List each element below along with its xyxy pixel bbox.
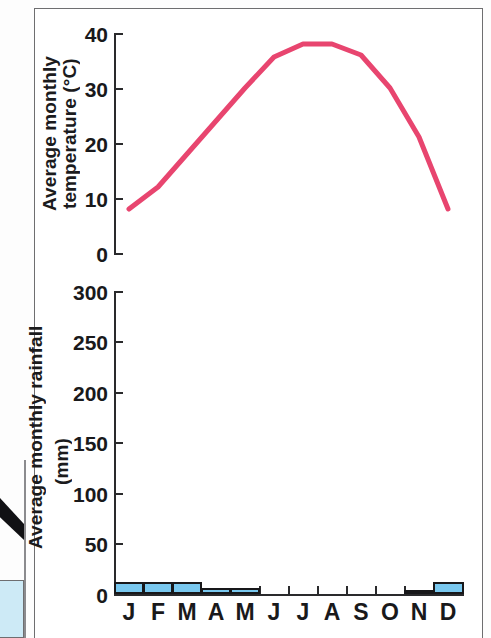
rainfall-tick-label-100: 100 xyxy=(48,483,108,507)
rainfall-tick-200 xyxy=(114,392,123,394)
rainfall-xlabel-apr: A xyxy=(208,599,225,626)
temperature-chart: Average monthly temperature (°C) 40 30 2… xyxy=(0,0,491,262)
climate-graph-page: Average monthly temperature (°C) 40 30 2… xyxy=(0,0,491,638)
rainfall-tick-label-150: 150 xyxy=(48,432,108,456)
rainfall-bar-jan xyxy=(114,582,144,594)
rainfall-xlabel-jul: J xyxy=(297,599,310,626)
rainfall-xlabel-nov: N xyxy=(411,599,428,626)
rainfall-xlabel-oct: O xyxy=(381,599,399,626)
rainfall-chart: Average monthly rainfall (mm) 300 250 20… xyxy=(0,262,491,638)
rainfall-xlabel-mar: M xyxy=(177,599,196,626)
rainfall-tick-150 xyxy=(114,442,123,444)
rainfall-bar-apr xyxy=(201,588,231,594)
rainfall-xlabel-jan: J xyxy=(123,599,136,626)
rainfall-tick-300 xyxy=(114,291,123,293)
rainfall-axis-title-line1: Average monthly rainfall xyxy=(25,325,46,548)
rainfall-tick-label-250: 250 xyxy=(48,331,108,355)
rainfall-bar-mar xyxy=(172,582,202,594)
rainfall-tick-250 xyxy=(114,341,123,343)
rainfall-tick-label-200: 200 xyxy=(48,382,108,406)
rainfall-xtick-jul xyxy=(288,586,290,594)
rainfall-xtick-aug xyxy=(317,586,319,594)
rainfall-bar-may xyxy=(230,588,260,594)
rainfall-xlabel-jun: J xyxy=(268,599,281,626)
rainfall-tick-label-50: 50 xyxy=(48,533,108,557)
rainfall-tick-100 xyxy=(114,493,123,495)
rainfall-x-axis xyxy=(114,594,464,596)
rainfall-tick-label-300: 300 xyxy=(48,281,108,305)
rainfall-bar-feb xyxy=(143,582,173,594)
rainfall-xlabel-feb: F xyxy=(151,599,165,626)
rainfall-xtick-oct xyxy=(375,586,377,594)
temperature-line xyxy=(129,44,448,209)
rainfall-tick-50 xyxy=(114,543,123,545)
rainfall-xlabel-sep: S xyxy=(353,599,368,626)
temperature-plot-area xyxy=(0,0,491,262)
rainfall-tick-label-0: 0 xyxy=(48,584,108,608)
rainfall-xlabel-dec: D xyxy=(440,599,457,626)
rainfall-bar-nov xyxy=(404,590,434,594)
rainfall-xlabel-aug: A xyxy=(324,599,341,626)
rainfall-xtick-sep xyxy=(346,586,348,594)
rainfall-bar-dec xyxy=(433,582,464,594)
rainfall-xlabel-may: M xyxy=(235,599,254,626)
